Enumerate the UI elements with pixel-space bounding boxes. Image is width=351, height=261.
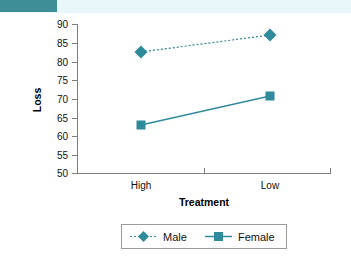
y-tick-label: 60 — [57, 131, 69, 142]
x-tick-label-low: Low — [261, 180, 280, 191]
data-point-female-low — [266, 92, 275, 101]
y-axis-title: Loss — [31, 88, 43, 113]
y-tick-label: 75 — [57, 75, 69, 86]
series-line-male — [141, 35, 270, 52]
y-tick-label: 90 — [57, 19, 69, 30]
legend-item-female: Female — [205, 231, 275, 243]
data-point-male-high — [135, 46, 148, 59]
x-axis-title: Treatment — [179, 196, 230, 208]
data-point-female-high — [137, 121, 146, 130]
data-point-male-low — [264, 29, 277, 42]
y-tick-label: 80 — [57, 57, 69, 68]
series-line-female — [141, 96, 270, 125]
x-tick-label-high: High — [131, 180, 152, 191]
interaction-plot-chart: 90 85 80 75 70 65 60 55 50 Loss High Low… — [0, 0, 351, 261]
legend: Male Female — [122, 225, 287, 249]
figure-root: 90 85 80 75 70 65 60 55 50 Loss High Low… — [0, 0, 351, 261]
y-tick-label: 85 — [57, 38, 69, 49]
y-axis-ticks: 90 85 80 75 70 65 60 55 50 — [57, 19, 78, 179]
y-tick-label: 65 — [57, 113, 69, 124]
legend-label-male: Male — [163, 231, 187, 243]
legend-label-female: Female — [238, 231, 275, 243]
legend-marker-female-square-icon — [214, 232, 223, 241]
y-tick-label: 55 — [57, 150, 69, 161]
y-tick-label: 70 — [57, 94, 69, 105]
y-tick-label: 50 — [57, 168, 69, 179]
